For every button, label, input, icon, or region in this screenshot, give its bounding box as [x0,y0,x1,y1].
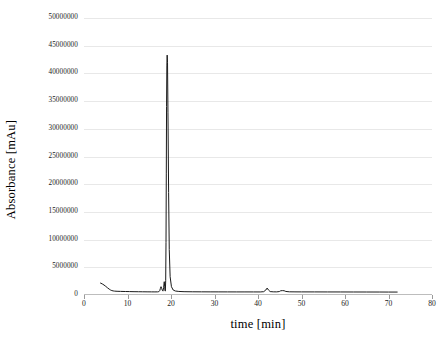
y-axis-tick-label: 15000000 [8,208,78,215]
y-axis-title: Absorbance [mAu] [0,0,22,339]
x-axis-tick-label: 80 [412,300,447,308]
plot-area [84,18,432,295]
chromatogram-chart: Absorbance [mAu] time [min] 050000001000… [0,0,447,339]
x-axis-tick-label: 70 [369,300,409,308]
x-axis-tick-label: 20 [151,300,191,308]
x-axis-tick-label: 0 [64,300,104,308]
y-axis-tick-label: 30000000 [8,125,78,132]
x-axis-tick-label: 50 [282,300,322,308]
y-axis-tick-label: 45000000 [8,42,78,49]
y-axis-tick-label: 5000000 [8,263,78,270]
y-axis-tick-label: 10000000 [8,236,78,243]
y-axis-tick-label: 20000000 [8,180,78,187]
y-axis-tick-label: 0 [8,291,78,298]
x-axis-title: time [min] [84,317,432,332]
x-axis-tick-label: 10 [108,300,148,308]
x-axis-tick-label: 60 [325,300,365,308]
y-axis-tick-label: 35000000 [8,97,78,104]
chromatogram-trace [84,18,432,295]
x-axis-tick-label: 30 [195,300,235,308]
y-axis-tick-label: 40000000 [8,69,78,76]
y-axis-tick-label: 50000000 [8,14,78,21]
x-axis-tick-label: 40 [238,300,278,308]
y-axis-tick-label: 25000000 [8,153,78,160]
